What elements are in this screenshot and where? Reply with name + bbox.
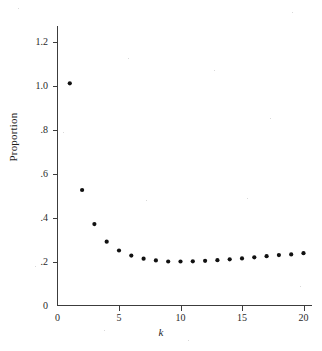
data-point <box>289 252 293 256</box>
paper-speck <box>247 198 248 199</box>
data-point <box>215 258 219 262</box>
chart-figure: 0.2.4.6.81.01.2 05101520 Proportion k <box>0 0 322 351</box>
data-point <box>117 248 121 252</box>
y-tick-label: 1.0 <box>14 81 48 91</box>
y-tick-label: .8 <box>14 125 48 135</box>
x-tick-label: 10 <box>166 313 196 323</box>
data-point <box>92 222 96 226</box>
paper-speck <box>35 266 36 267</box>
paper-speck <box>300 286 301 287</box>
y-tick-label: .2 <box>14 257 48 267</box>
paper-speck <box>146 200 147 201</box>
data-point <box>178 259 182 263</box>
data-point <box>301 251 305 255</box>
data-point <box>277 253 281 257</box>
data-point <box>68 81 72 85</box>
data-point <box>203 259 207 263</box>
paper-speck <box>214 70 215 71</box>
x-tick-label: 0 <box>43 313 73 323</box>
y-axis-ticks <box>53 42 58 262</box>
data-point-series <box>68 81 306 263</box>
data-point <box>228 257 232 261</box>
x-tick-label: 20 <box>289 313 319 323</box>
y-axis-title: Proportion <box>7 87 19 187</box>
paper-speck <box>63 132 64 133</box>
paper-speck <box>292 12 293 13</box>
y-tick-label: .6 <box>14 169 48 179</box>
data-point <box>166 259 170 263</box>
y-tick-label: 0 <box>14 301 48 311</box>
paper-speck <box>270 118 271 119</box>
data-point <box>129 253 133 257</box>
data-point <box>105 240 109 244</box>
x-axis-ticks <box>120 306 305 311</box>
data-point <box>252 255 256 259</box>
data-point <box>80 188 84 192</box>
data-point <box>154 258 158 262</box>
data-point <box>265 254 269 258</box>
x-tick-label: 15 <box>227 313 257 323</box>
data-point <box>142 257 146 261</box>
axes-group <box>57 26 312 306</box>
y-tick-label: .4 <box>14 213 48 223</box>
x-tick-label: 5 <box>104 313 134 323</box>
data-point <box>240 256 244 260</box>
paper-speck <box>18 8 19 9</box>
paper-speck <box>188 340 189 341</box>
paper-speck <box>128 58 129 59</box>
x-axis-title: k <box>0 326 322 338</box>
y-tick-label: 1.2 <box>14 37 48 47</box>
paper-speck <box>104 330 105 331</box>
scatter-plot-canvas <box>0 0 322 351</box>
data-point <box>191 259 195 263</box>
